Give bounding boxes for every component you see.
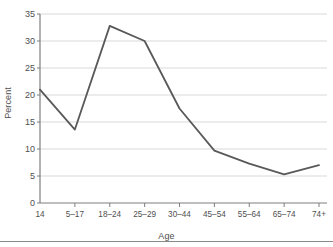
x-tick-label: 14 <box>35 210 45 219</box>
x-tick-labels-group: 145–1718–2425–2930–4445–5455–6465–7474+ <box>35 210 326 219</box>
x-axis-title: Age <box>158 231 174 241</box>
x-tick-label: 55–64 <box>238 210 261 219</box>
y-tick-labels-group: 05101520253035 <box>25 9 40 208</box>
y-tick-label: 20 <box>25 90 35 100</box>
y-tick-label: 25 <box>25 63 35 73</box>
y-tick-label: 10 <box>25 144 35 154</box>
y-tick-label: 15 <box>25 117 35 127</box>
y-tick-label: 30 <box>25 36 35 46</box>
x-tick-label: 25–29 <box>133 210 156 219</box>
y-tick-label: 0 <box>30 198 35 208</box>
y-tick-label: 5 <box>30 171 35 181</box>
y-tick-label: 35 <box>25 9 35 19</box>
gridlines-group <box>40 14 327 176</box>
plot-area: 05101520253035 145–1718–2425–2930–4445–5… <box>0 0 333 247</box>
x-tick-label: 5–17 <box>66 210 85 219</box>
x-tick-label: 45–54 <box>203 210 226 219</box>
x-tick-marks-group <box>75 203 319 207</box>
bottom-divider <box>0 241 333 242</box>
x-tick-label: 30–44 <box>168 210 191 219</box>
x-tick-label: 65–74 <box>273 210 296 219</box>
x-tick-label: 18–24 <box>98 210 121 219</box>
x-tick-label: 74+ <box>312 210 326 219</box>
data-series-line <box>40 26 319 175</box>
line-chart: Percent 05101520253035 145–1718–2425–293… <box>0 0 333 247</box>
